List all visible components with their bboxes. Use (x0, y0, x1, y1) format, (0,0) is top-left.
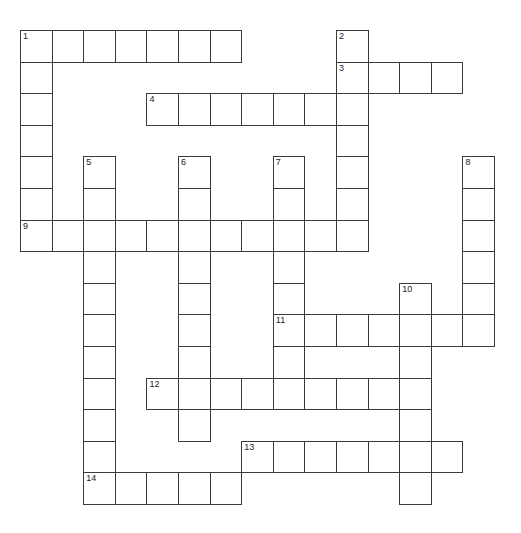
crossword-cell[interactable] (20, 156, 53, 189)
crossword-cell[interactable] (178, 378, 211, 411)
crossword-cell[interactable] (336, 314, 369, 347)
crossword-cell[interactable] (336, 441, 369, 474)
crossword-cell[interactable] (178, 30, 211, 63)
crossword-cell[interactable] (399, 472, 432, 505)
crossword-cell[interactable] (462, 314, 495, 347)
crossword-cell[interactable] (273, 346, 306, 379)
crossword-cell[interactable] (210, 378, 243, 411)
crossword-cell[interactable] (52, 220, 85, 253)
crossword-cell[interactable] (304, 93, 337, 126)
crossword-cell[interactable] (304, 314, 337, 347)
crossword-cell[interactable] (336, 188, 369, 221)
crossword-cell[interactable] (146, 472, 179, 505)
crossword-cell[interactable] (336, 93, 369, 126)
crossword-cell[interactable]: 10 (399, 283, 432, 316)
crossword-cell[interactable] (399, 409, 432, 442)
crossword-cell[interactable] (368, 62, 401, 95)
crossword-cell[interactable] (336, 125, 369, 158)
crossword-cell[interactable] (462, 251, 495, 284)
crossword-cell[interactable] (146, 220, 179, 253)
crossword-cell[interactable] (178, 472, 211, 505)
crossword-cell[interactable] (241, 220, 274, 253)
crossword-cell[interactable] (83, 314, 116, 347)
crossword-cell[interactable] (83, 409, 116, 442)
crossword-cell[interactable]: 9 (20, 220, 53, 253)
crossword-cell[interactable] (336, 220, 369, 253)
crossword-cell[interactable] (83, 251, 116, 284)
crossword-cell[interactable]: 13 (241, 441, 274, 474)
crossword-cell[interactable] (273, 441, 306, 474)
crossword-cell[interactable] (399, 62, 432, 95)
crossword-cell[interactable] (368, 378, 401, 411)
crossword-cell[interactable]: 2 (336, 30, 369, 63)
crossword-cell[interactable]: 14 (83, 472, 116, 505)
crossword-cell[interactable] (273, 93, 306, 126)
crossword-cell[interactable] (178, 93, 211, 126)
crossword-cell[interactable] (431, 62, 464, 95)
crossword-cell[interactable]: 6 (178, 156, 211, 189)
crossword-cell[interactable] (178, 409, 211, 442)
crossword-cell[interactable] (146, 30, 179, 63)
crossword-cell[interactable] (115, 220, 148, 253)
crossword-cell[interactable]: 4 (146, 93, 179, 126)
crossword-cell[interactable] (336, 378, 369, 411)
crossword-cell[interactable] (83, 441, 116, 474)
crossword-cell[interactable]: 8 (462, 156, 495, 189)
crossword-cell[interactable] (20, 62, 53, 95)
crossword-cell[interactable]: 3 (336, 62, 369, 95)
crossword-cell[interactable]: 11 (273, 314, 306, 347)
crossword-cell[interactable] (399, 346, 432, 379)
clue-number: 2 (339, 32, 344, 41)
crossword-cell[interactable] (83, 188, 116, 221)
crossword-cell[interactable] (178, 283, 211, 316)
crossword-cell[interactable] (210, 93, 243, 126)
crossword-cell[interactable] (83, 378, 116, 411)
crossword-cell[interactable] (462, 220, 495, 253)
crossword-cell[interactable] (273, 220, 306, 253)
crossword-cell[interactable] (241, 378, 274, 411)
crossword-cell[interactable] (83, 220, 116, 253)
crossword-cell[interactable] (210, 472, 243, 505)
crossword-cell[interactable] (83, 346, 116, 379)
crossword-cell[interactable] (304, 378, 337, 411)
crossword-cell[interactable]: 5 (83, 156, 116, 189)
crossword-cell[interactable] (431, 314, 464, 347)
crossword-cell[interactable] (52, 30, 85, 63)
crossword-cell[interactable] (273, 251, 306, 284)
crossword-cell[interactable] (115, 30, 148, 63)
crossword-cell[interactable] (304, 220, 337, 253)
crossword-cell[interactable] (115, 472, 148, 505)
crossword-cell[interactable] (210, 30, 243, 63)
crossword-cell[interactable]: 7 (273, 156, 306, 189)
crossword-cell[interactable] (399, 378, 432, 411)
crossword-cell[interactable] (178, 346, 211, 379)
crossword-cell[interactable] (210, 220, 243, 253)
crossword-cell[interactable] (368, 441, 401, 474)
crossword-cell[interactable]: 12 (146, 378, 179, 411)
crossword-cell[interactable] (178, 220, 211, 253)
crossword-cell[interactable] (462, 283, 495, 316)
crossword-cell[interactable] (431, 441, 464, 474)
crossword-cell[interactable] (462, 188, 495, 221)
crossword-cell[interactable] (178, 314, 211, 347)
crossword-cell[interactable] (83, 30, 116, 63)
crossword-cell[interactable] (178, 188, 211, 221)
crossword-cell[interactable] (336, 156, 369, 189)
crossword-cell[interactable]: 1 (20, 30, 53, 63)
crossword-cell[interactable] (273, 283, 306, 316)
crossword-cell[interactable] (304, 441, 337, 474)
crossword-cell[interactable] (83, 283, 116, 316)
crossword-cell[interactable] (368, 314, 401, 347)
crossword-cell[interactable] (20, 125, 53, 158)
clue-number: 9 (23, 222, 28, 231)
crossword-cell[interactable] (273, 378, 306, 411)
clue-number: 8 (465, 158, 470, 167)
crossword-cell[interactable] (178, 251, 211, 284)
crossword-cell[interactable] (399, 441, 432, 474)
crossword-cell[interactable] (241, 93, 274, 126)
crossword-cell[interactable] (273, 188, 306, 221)
crossword-cell[interactable] (20, 93, 53, 126)
clue-number: 12 (149, 380, 159, 389)
crossword-cell[interactable] (20, 188, 53, 221)
crossword-cell[interactable] (399, 314, 432, 347)
